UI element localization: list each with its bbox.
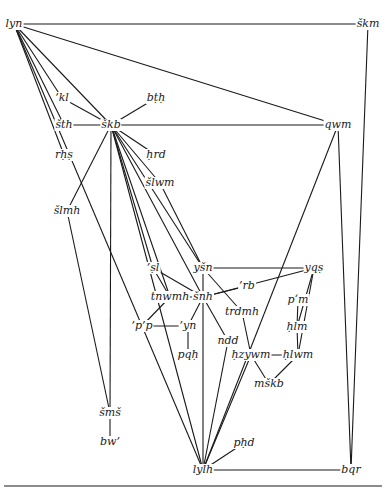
edge-skb-sms xyxy=(110,125,111,413)
node-ndd: ndd xyxy=(216,335,239,347)
node-lylh: lylh xyxy=(192,464,214,476)
edge-slmh-sms xyxy=(67,211,110,413)
node-slmh: šlmh xyxy=(53,205,82,217)
node-trdmh: trdmh xyxy=(224,306,260,318)
edge-qwm-bqr xyxy=(338,125,351,470)
edge-skb-sl xyxy=(111,125,153,268)
node-pqh: pqḥ xyxy=(176,349,199,361)
node-yn: ’yn xyxy=(179,320,198,332)
node-rb: ’rb xyxy=(238,280,256,292)
node-bqr: bqr xyxy=(340,464,361,476)
node-hrd: ḥrd xyxy=(145,149,166,161)
node-slwm: šlwm xyxy=(144,177,175,189)
node-hzywm: ḥzywm xyxy=(231,349,272,361)
node-snh: šnh xyxy=(192,291,214,303)
node-bth: bṭḥ xyxy=(146,92,167,104)
node-hlm: ḥlm xyxy=(285,321,308,333)
node-pm: p‘m xyxy=(287,294,310,306)
edge-yqs-hlwm xyxy=(298,268,314,355)
node-rhs: rḥṣ xyxy=(54,149,74,161)
edge-lylh-qwm xyxy=(203,125,338,470)
node-lyn: lyn xyxy=(5,18,24,30)
edge-slwm-ysn xyxy=(160,183,203,268)
node-hlwm: ḥlwm xyxy=(282,349,314,361)
node-phd: pḥd xyxy=(232,437,255,449)
node-tnwmh: tnwmh xyxy=(150,291,190,303)
edge-skb-slmh xyxy=(67,125,111,211)
node-skm: škm xyxy=(356,18,381,30)
node-mskb: mškb xyxy=(253,378,285,390)
node-ysn: yšn xyxy=(193,262,214,274)
word-network-diagram xyxy=(0,0,386,492)
node-skb: škb xyxy=(100,119,121,131)
node-yqs: yqṣ xyxy=(304,262,325,274)
edge-ndd-lylh xyxy=(203,341,228,470)
edge-lyn-sth xyxy=(14,24,64,125)
node-bw: bw’ xyxy=(99,436,121,448)
node-kl: ’kl xyxy=(54,92,70,104)
node-sl: ’ṣl xyxy=(146,262,161,274)
edge-skb-ysn xyxy=(111,125,203,268)
node-qwm: qwm xyxy=(324,119,353,131)
edge-lyn-lylh xyxy=(14,24,203,470)
node-sms: šmš xyxy=(98,407,122,419)
node-pp: ’p’p xyxy=(130,320,153,332)
edge-skm-bqr xyxy=(351,24,368,470)
node-sth: šth xyxy=(54,119,73,131)
